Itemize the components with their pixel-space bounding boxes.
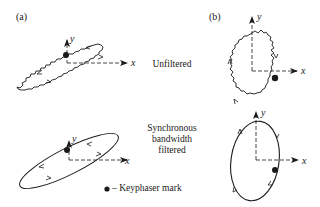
orbit-b-unfiltered bbox=[228, 17, 297, 104]
axis-label-x-b-filtered: x bbox=[302, 155, 306, 166]
axis-label-y-b-filtered: y bbox=[261, 107, 265, 118]
row-label-filtered-line1: Synchronous bbox=[117, 123, 227, 134]
row-label-unfiltered: Unfiltered bbox=[117, 59, 227, 70]
axes-b-unfiltered bbox=[252, 17, 297, 71]
row-label-filtered-line3: filtered bbox=[117, 145, 227, 156]
orbit-b-filtered bbox=[226, 112, 298, 204]
axes-b-filtered bbox=[256, 112, 298, 160]
orbit-diagram bbox=[0, 0, 320, 207]
axis-label-x-a-filtered: x bbox=[125, 155, 129, 166]
row-label-filtered-line2: bandwidth bbox=[117, 134, 227, 145]
orbit-a-filtered bbox=[14, 124, 127, 197]
axis-label-y-a-unfiltered: y bbox=[70, 33, 74, 44]
axis-label-x-b-unfiltered: x bbox=[301, 65, 305, 76]
panel-label-b: (b) bbox=[209, 11, 221, 22]
keyphasor-dot-b-filtered bbox=[272, 167, 278, 173]
keyphasor-dot-a-unfiltered bbox=[63, 52, 69, 58]
panel-label-a: (a) bbox=[16, 11, 27, 22]
orbit-a-unfiltered bbox=[17, 40, 127, 90]
legend-keyphaser-text: – Keyphaser mark bbox=[112, 183, 182, 194]
keyphasor-dot-b-unfiltered bbox=[272, 75, 278, 81]
orbit-path-a-unfiltered bbox=[17, 44, 103, 90]
axis-label-y-a-filtered: y bbox=[72, 133, 76, 144]
legend-keyphasor-dot bbox=[104, 186, 109, 191]
axis-label-y-b-unfiltered: y bbox=[257, 11, 261, 22]
keyphasor-dot-a-filtered bbox=[64, 147, 70, 153]
